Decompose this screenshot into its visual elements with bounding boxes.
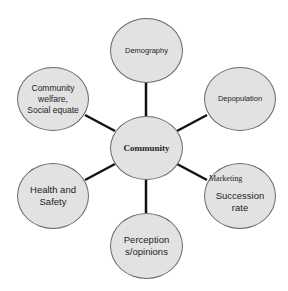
node-label: Depopulation	[218, 94, 262, 104]
connector-marketing	[177, 164, 207, 180]
node-label: Demography	[125, 46, 168, 56]
node-demography: Demography	[110, 18, 183, 83]
node-label: Community welfare, Social equate	[26, 83, 80, 116]
center-node-community: Community	[110, 116, 183, 180]
node-marketing-succession: Marketing Succession rate	[204, 163, 276, 229]
node-depopulation: Depopulation	[204, 67, 276, 131]
node-label: Succession rate	[212, 190, 268, 214]
node-label-marketing: Marketing	[209, 174, 242, 183]
node-label: Perception s/opinions	[118, 234, 176, 258]
connector-depopulation	[177, 115, 207, 131]
node-community-welfare: Community welfare, Social equate	[17, 67, 89, 131]
connector-health-safety	[85, 164, 115, 180]
node-label: Health and Safety	[25, 184, 81, 208]
node-health-safety: Health and Safety	[17, 163, 89, 229]
node-perceptions: Perception s/opinions	[110, 213, 183, 279]
center-label: Community	[123, 143, 169, 153]
connector-community-welfare	[85, 115, 115, 131]
